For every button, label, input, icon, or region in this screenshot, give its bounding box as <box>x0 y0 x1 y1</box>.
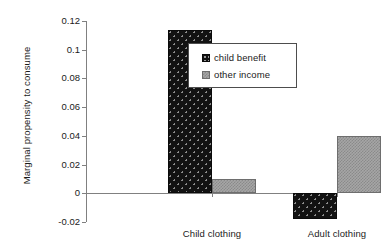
legend: child benefit other income <box>188 43 297 88</box>
x-tick-mark <box>212 193 213 197</box>
y-tick-mark <box>82 193 86 194</box>
legend-swatch-icon <box>202 71 210 79</box>
y-axis-title: Marginal propensity to consume <box>21 16 32 216</box>
legend-label: other income <box>214 69 270 80</box>
legend-label: child benefit <box>214 52 266 63</box>
y-tick-label: 0.08 <box>38 72 80 83</box>
legend-swatch-icon <box>202 54 210 62</box>
y-axis-line <box>86 21 87 222</box>
y-tick-label: 0 <box>38 187 80 198</box>
bar <box>337 136 381 193</box>
bar <box>293 193 337 219</box>
y-tick-mark <box>82 50 86 51</box>
y-tick-mark <box>82 165 86 166</box>
y-tick-mark <box>82 78 86 79</box>
bar <box>212 179 256 193</box>
legend-item-child-benefit: child benefit <box>202 52 266 63</box>
y-tick-mark <box>82 136 86 137</box>
y-tick-label: 0.06 <box>38 101 80 112</box>
x-axis-category-label: Adult clothing <box>277 228 385 239</box>
y-tick-mark <box>82 222 86 223</box>
y-tick-label: 0.12 <box>38 15 80 26</box>
y-tick-label: -0.02 <box>38 216 80 227</box>
y-tick-label: 0.02 <box>38 159 80 170</box>
y-tick-label: 0.04 <box>38 130 80 141</box>
y-tick-label: 0.1 <box>38 44 80 55</box>
x-axis-category-label: Child clothing <box>152 228 272 239</box>
legend-item-other-income: other income <box>202 69 270 80</box>
y-tick-mark <box>82 21 86 22</box>
y-tick-mark <box>82 107 86 108</box>
x-tick-mark <box>337 193 338 197</box>
